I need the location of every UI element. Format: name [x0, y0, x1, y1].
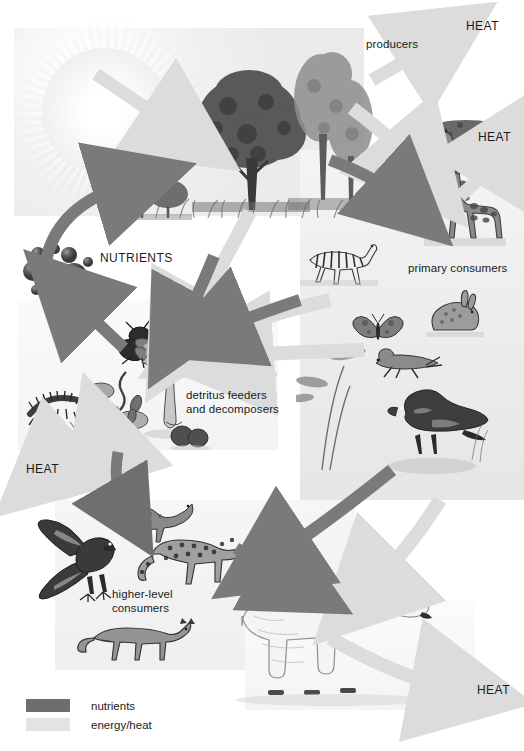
label-heat-top-right: HEAT [466, 20, 499, 34]
label-nutrients: NUTRIENTS [100, 252, 173, 266]
legend-swatch-energy-heat [26, 718, 70, 731]
label-primary-consumers: primary consumers [408, 262, 507, 276]
label-detritus-feeders: detritus feeders and decomposers [186, 389, 279, 416]
legend-item-energy-heat: energy/heat [26, 716, 152, 733]
label-producers: producers [366, 38, 418, 52]
legend-swatch-nutrients [26, 699, 70, 712]
label-higher-level-consumers: higher-level consumers [112, 588, 173, 615]
ecosystem-diagram: producers HEAT HEAT NUTRIENTS primary co… [0, 0, 524, 751]
legend-label-energy-heat: energy/heat [91, 719, 152, 731]
label-heat-giraffe: HEAT [478, 131, 511, 145]
label-heat-left: HEAT [26, 463, 59, 477]
label-heat-bottom-right: HEAT [477, 684, 510, 698]
legend-label-nutrients: nutrients [91, 700, 135, 712]
legend-item-nutrients: nutrients [26, 697, 152, 714]
legend: nutrients energy/heat [26, 697, 152, 735]
